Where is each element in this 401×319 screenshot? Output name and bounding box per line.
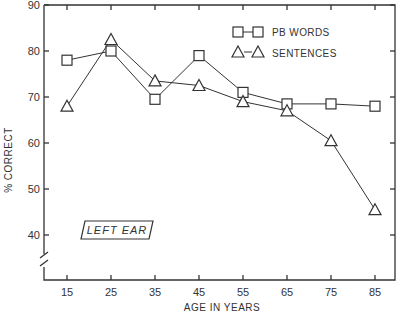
y-axis-title: % CORRECT <box>3 127 14 193</box>
x-tick-label: 25 <box>105 286 117 298</box>
y-tick-label: 90 <box>28 0 40 11</box>
x-tick-label: 45 <box>193 286 205 298</box>
legend: PB WORDSSENTENCES <box>232 27 337 59</box>
series-layer <box>61 34 381 215</box>
y-tick-label: 60 <box>28 137 40 149</box>
y-tick-label: 50 <box>28 183 40 195</box>
x-tick-label: 85 <box>369 286 381 298</box>
y-tick-label: 40 <box>28 229 40 241</box>
x-tick-label: 15 <box>61 286 73 298</box>
x-tick-label: 55 <box>237 286 249 298</box>
y-tick-label: 80 <box>28 45 40 57</box>
x-axis-title: AGE IN YEARS <box>184 302 260 313</box>
series-sentences <box>61 34 381 215</box>
annotation-text: LEFT EAR <box>87 224 148 236</box>
x-tick-label: 65 <box>281 286 293 298</box>
legend-label-sentences: SENTENCES <box>272 48 337 59</box>
left-ear-annotation: LEFT EAR <box>81 221 153 239</box>
legend-label-pb-words: PB WORDS <box>272 27 330 38</box>
x-tick-label: 35 <box>149 286 161 298</box>
line-chart: 1525354555657585908070605040 PB WORDSSEN… <box>0 0 401 319</box>
x-tick-label: 75 <box>325 286 337 298</box>
axes: 1525354555657585908070605040 <box>28 0 395 298</box>
y-tick-label: 70 <box>28 91 40 103</box>
